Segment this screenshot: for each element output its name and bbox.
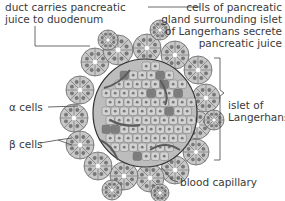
- label-islet-line2: Langerhans: [228, 111, 285, 123]
- nucleus: [104, 44, 107, 47]
- nucleus: [82, 80, 85, 83]
- acinus: [98, 30, 118, 50]
- nucleus: [127, 119, 130, 122]
- nucleus: [145, 65, 148, 68]
- nucleus: [210, 113, 213, 116]
- nucleus: [136, 119, 139, 122]
- nucleus: [100, 156, 103, 159]
- nucleus: [168, 128, 171, 131]
- acinus: [204, 110, 224, 130]
- nucleus: [85, 57, 88, 60]
- nucleus: [159, 110, 162, 113]
- nucleus: [177, 110, 180, 113]
- nucleus: [181, 101, 184, 104]
- nucleus: [170, 61, 173, 64]
- nucleus: [172, 83, 175, 86]
- nucleus: [150, 74, 153, 77]
- nucleus: [145, 168, 148, 171]
- nucleus: [187, 154, 190, 157]
- nucleus: [90, 52, 93, 55]
- nucleus: [100, 172, 103, 175]
- nucleus: [181, 57, 184, 60]
- nucleus: [112, 41, 115, 44]
- acinus: [60, 104, 88, 132]
- nucleus: [130, 178, 133, 181]
- nucleus: [150, 110, 153, 113]
- nucleus: [181, 172, 184, 175]
- nucleus: [97, 68, 100, 71]
- nucleus: [161, 34, 164, 37]
- nucleus: [145, 119, 148, 122]
- nucleus: [88, 161, 91, 164]
- nucleus: [80, 113, 83, 116]
- nucleus: [76, 108, 79, 111]
- nucleus: [75, 151, 78, 154]
- nucleus: [105, 186, 108, 189]
- nucleus: [90, 68, 93, 71]
- nucleus: [154, 194, 157, 197]
- label-blood-capillary: blood capillary: [180, 176, 257, 188]
- nucleus: [159, 74, 162, 77]
- nucleus: [164, 194, 167, 197]
- nucleus: [199, 131, 202, 134]
- nucleus: [141, 110, 144, 113]
- nucleus: [93, 172, 96, 175]
- nucleus: [132, 110, 135, 113]
- nucleus: [153, 31, 156, 34]
- nucleus: [116, 186, 119, 189]
- nucleus: [172, 119, 175, 122]
- nucleus: [181, 50, 184, 53]
- nucleus: [101, 57, 104, 60]
- nucleus: [208, 104, 211, 107]
- nucleus: [75, 80, 78, 83]
- nucleus: [123, 128, 126, 131]
- nucleus: [212, 100, 215, 103]
- nucleus: [203, 127, 206, 130]
- nucleus: [161, 197, 164, 200]
- nucleus: [104, 161, 107, 164]
- nucleus: [215, 113, 218, 116]
- nucleus: [125, 52, 129, 56]
- nucleus: [114, 128, 117, 131]
- nucleus: [196, 100, 199, 103]
- nucleus: [108, 52, 112, 56]
- nucleus: [101, 36, 104, 39]
- nucleus: [113, 194, 116, 197]
- nucleus: [188, 72, 191, 75]
- nucleus: [159, 92, 162, 95]
- nucleus: [136, 137, 139, 140]
- nucleus: [145, 155, 148, 158]
- nucleus: [132, 92, 135, 95]
- acinus: [151, 184, 169, 201]
- nucleus: [165, 50, 168, 53]
- nucleus: [150, 92, 153, 95]
- nucleus: [191, 158, 194, 161]
- nucleus: [193, 76, 196, 79]
- nucleus: [153, 50, 156, 53]
- nucleus: [177, 61, 180, 64]
- nucleus: [177, 128, 180, 131]
- nucleus: [152, 168, 155, 171]
- nucleus: [200, 60, 203, 63]
- nucleus: [120, 57, 124, 61]
- nucleus: [163, 137, 166, 140]
- nucleus: [186, 110, 189, 113]
- nucleus: [161, 187, 164, 190]
- nucleus: [69, 108, 72, 111]
- nucleus: [187, 147, 190, 150]
- nucleus: [123, 146, 126, 149]
- nucleus: [207, 121, 210, 124]
- nucleus: [150, 128, 153, 131]
- acinus: [184, 56, 212, 84]
- nucleus: [202, 147, 205, 150]
- nucleus: [145, 137, 148, 140]
- nucleus: [127, 83, 130, 86]
- label-acinar-line1: cells of pancreatic: [186, 1, 282, 13]
- nucleus: [114, 92, 117, 95]
- nucleus: [86, 147, 89, 150]
- nucleus: [181, 165, 184, 168]
- nucleus: [126, 182, 129, 185]
- nucleus: [201, 88, 204, 91]
- nucleus: [188, 65, 191, 68]
- nucleus: [116, 191, 119, 194]
